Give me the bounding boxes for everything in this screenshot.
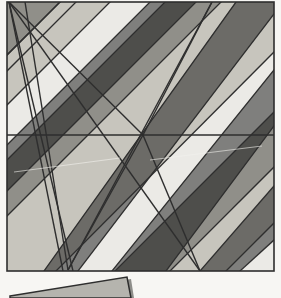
main-panel [7, 2, 274, 271]
geometric-composition [0, 0, 281, 298]
artwork-stage [0, 0, 281, 298]
